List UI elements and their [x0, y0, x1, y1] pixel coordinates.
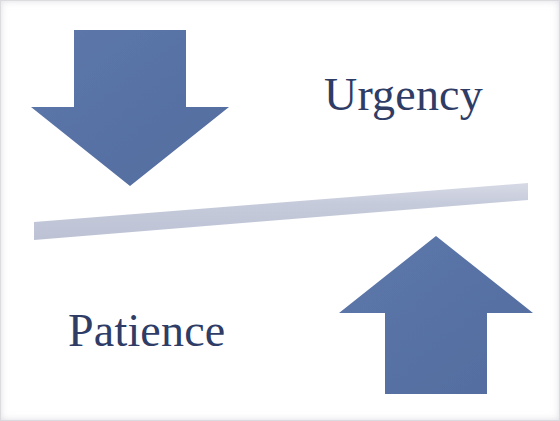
down-arrow-shape — [31, 30, 229, 186]
label-patience: Patience — [68, 308, 225, 354]
up-arrow-shape — [339, 236, 533, 394]
label-urgency: Urgency — [324, 72, 483, 118]
diagram-shapes-layer — [0, 0, 560, 421]
diagram-canvas: Urgency Patience — [0, 0, 560, 421]
tilted-beam-shape — [34, 183, 528, 240]
